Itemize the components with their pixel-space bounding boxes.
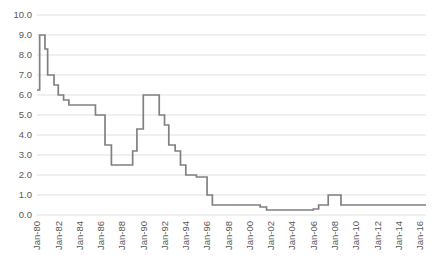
y-tick-label: 10.0 bbox=[14, 9, 33, 20]
y-tick-label: 9.0 bbox=[19, 29, 32, 40]
x-tick-label: Jan-94 bbox=[180, 221, 191, 250]
x-tick-label: Jan-84 bbox=[74, 221, 85, 250]
x-tick-label: Jan-82 bbox=[53, 221, 64, 250]
x-tick-label: Jan-80 bbox=[31, 221, 42, 250]
x-tick-label: Jan-06 bbox=[308, 221, 319, 250]
y-tick-label: 7.0 bbox=[19, 69, 32, 80]
x-tick-label: Jan-86 bbox=[95, 221, 106, 250]
chart-canvas: 0.01.02.03.04.05.06.07.08.09.010.0 Jan-8… bbox=[0, 0, 437, 263]
y-axis-tick-labels: 0.01.02.03.04.05.06.07.08.09.010.0 bbox=[14, 9, 33, 220]
x-tick-label: Jan-14 bbox=[393, 221, 404, 250]
y-tick-label: 3.0 bbox=[19, 149, 32, 160]
x-tick-label: Jan-16 bbox=[414, 221, 425, 250]
x-tick-label: Jan-08 bbox=[329, 221, 340, 250]
y-tick-label: 5.0 bbox=[19, 109, 32, 120]
data-series-group bbox=[37, 35, 426, 210]
y-tick-label: 4.0 bbox=[19, 129, 32, 140]
x-tick-label: Jan-90 bbox=[138, 221, 149, 250]
x-tick-label: Jan-88 bbox=[116, 221, 127, 250]
x-tick-label: Jan-92 bbox=[159, 221, 170, 250]
x-tick-label: Jan-96 bbox=[201, 221, 212, 250]
y-tick-label: 0.0 bbox=[19, 209, 32, 220]
x-tick-label: Jan-04 bbox=[286, 221, 297, 250]
x-tick-label: Jan-10 bbox=[350, 221, 361, 250]
line-chart: 0.01.02.03.04.05.06.07.08.09.010.0 Jan-8… bbox=[0, 0, 437, 263]
x-tick-label: Jan-12 bbox=[372, 221, 383, 250]
y-tick-label: 6.0 bbox=[19, 89, 32, 100]
x-tick-label: Jan-98 bbox=[223, 221, 234, 250]
x-tick-label: Jan-02 bbox=[265, 221, 276, 250]
x-tick-label: Jan-00 bbox=[244, 221, 255, 250]
y-tick-label: 8.0 bbox=[19, 49, 32, 60]
x-axis-tick-labels: Jan-80Jan-82Jan-84Jan-86Jan-88Jan-90Jan-… bbox=[31, 221, 425, 250]
series-line-rate bbox=[37, 35, 426, 210]
y-tick-label: 2.0 bbox=[19, 169, 32, 180]
y-tick-label: 1.0 bbox=[19, 189, 32, 200]
